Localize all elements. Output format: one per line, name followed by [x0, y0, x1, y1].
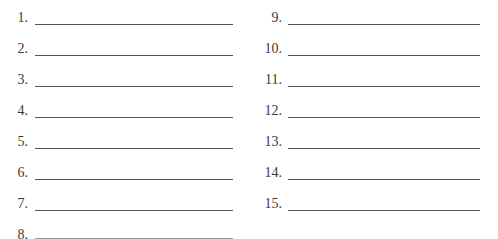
- answer-line[interactable]: [35, 55, 233, 56]
- blank-item-3[interactable]: 3.: [0, 70, 240, 90]
- item-number: 1.: [14, 8, 28, 28]
- blank-item-13[interactable]: 13.: [250, 132, 490, 152]
- blank-item-1[interactable]: 1.: [0, 8, 240, 28]
- item-number: 15.: [252, 194, 282, 214]
- blank-item-10[interactable]: 10.: [250, 39, 490, 59]
- blank-item-12[interactable]: 12.: [250, 101, 490, 121]
- item-number: 9.: [252, 8, 282, 28]
- item-number: 6.: [14, 163, 28, 183]
- answer-line[interactable]: [288, 24, 480, 25]
- answer-line[interactable]: [35, 86, 233, 87]
- answer-line[interactable]: [288, 210, 480, 211]
- item-number: 10.: [252, 39, 282, 59]
- item-number: 11.: [252, 70, 282, 90]
- answer-line[interactable]: [288, 55, 480, 56]
- answer-line[interactable]: [35, 24, 233, 25]
- item-number: 5.: [14, 132, 28, 152]
- answer-line[interactable]: [288, 179, 480, 180]
- blank-item-11[interactable]: 11.: [250, 70, 490, 90]
- answer-line[interactable]: [288, 117, 480, 118]
- item-number: 12.: [252, 101, 282, 121]
- blank-item-6[interactable]: 6.: [0, 163, 240, 183]
- answer-line[interactable]: [288, 148, 480, 149]
- blank-item-9[interactable]: 9.: [250, 8, 490, 28]
- blank-item-8[interactable]: 8.: [0, 225, 240, 239]
- answer-line[interactable]: [35, 148, 233, 149]
- item-number: 14.: [252, 163, 282, 183]
- answer-line[interactable]: [35, 179, 233, 180]
- answer-line[interactable]: [35, 117, 233, 118]
- blank-item-15[interactable]: 15.: [250, 194, 490, 214]
- blank-item-4[interactable]: 4.: [0, 101, 240, 121]
- blank-item-5[interactable]: 5.: [0, 132, 240, 152]
- answer-line[interactable]: [288, 86, 480, 87]
- item-number: 7.: [14, 194, 28, 214]
- blank-item-7[interactable]: 7.: [0, 194, 240, 214]
- item-number: 4.: [14, 101, 28, 121]
- blank-item-14[interactable]: 14.: [250, 163, 490, 183]
- item-number: 8.: [14, 225, 28, 239]
- answer-line[interactable]: [35, 210, 233, 211]
- blank-item-2[interactable]: 2.: [0, 39, 240, 59]
- item-number: 2.: [14, 39, 28, 59]
- answer-line[interactable]: [35, 238, 233, 239]
- item-number: 13.: [252, 132, 282, 152]
- item-number: 3.: [14, 70, 28, 90]
